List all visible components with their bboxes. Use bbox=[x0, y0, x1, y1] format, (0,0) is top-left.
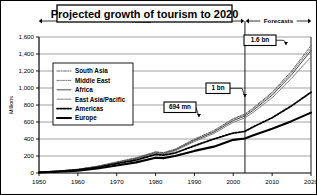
tourism-growth-line-chart: 02004006008001,0001,2001,4001,600Million… bbox=[1, 1, 316, 194]
forecasts-band-arrow-right-icon bbox=[308, 18, 311, 23]
y-axis-tick-label: 800 bbox=[24, 101, 35, 108]
legend-label-americas[interactable]: Americas bbox=[75, 105, 104, 112]
y-axis-tick-label: 400 bbox=[24, 135, 35, 142]
legend-label-europe[interactable]: Europe bbox=[75, 114, 97, 122]
x-axis-tick-label: 2000 bbox=[226, 178, 240, 185]
y-axis-title: Millions bbox=[8, 96, 14, 114]
page-title: Projected growth of tourism to 2020 bbox=[51, 8, 239, 20]
x-axis-tick-label: 1970 bbox=[110, 178, 124, 185]
y-axis-tick-label: 600 bbox=[24, 118, 35, 125]
x-axis-tick-label: 1960 bbox=[71, 178, 85, 185]
y-axis-tick-label: 0 bbox=[31, 169, 35, 176]
legend-label-south-asia[interactable]: South Asia bbox=[75, 67, 108, 74]
annotation-1bn-label: 1 bn bbox=[211, 84, 224, 91]
chart-figure: 02004006008001,0001,2001,4001,600Million… bbox=[0, 0, 317, 195]
legend-label-east-asia-pacific[interactable]: East Asia/Pacific bbox=[75, 96, 126, 103]
x-axis-tick-label: 1980 bbox=[149, 178, 163, 185]
y-axis-tick-label: 200 bbox=[24, 152, 35, 159]
actual-band-arrow-left-icon bbox=[39, 18, 42, 23]
y-axis-tick-label: 1,000 bbox=[19, 84, 35, 91]
x-axis-tick-label: 2010 bbox=[265, 178, 279, 185]
x-axis-tick-label: 1950 bbox=[32, 178, 46, 185]
x-axis-tick-label: 1990 bbox=[188, 178, 202, 185]
legend-label-middle-east[interactable]: Middle East bbox=[75, 77, 111, 84]
annotation-694mn-label: 694 mn bbox=[169, 103, 191, 110]
forecasts-band-label: Forecasts bbox=[264, 17, 294, 24]
actual-band-arrow-right-icon bbox=[241, 18, 244, 23]
annotation-16bn-label: 1.6 bn bbox=[251, 36, 270, 43]
x-axis-tick-label: 2020 bbox=[304, 178, 316, 185]
y-axis-tick-label: 1,400 bbox=[19, 50, 35, 57]
y-axis-tick-label: 1,200 bbox=[19, 67, 35, 74]
y-axis-tick-label: 1,600 bbox=[19, 33, 35, 40]
legend-label-africa[interactable]: Africa bbox=[75, 86, 93, 93]
forecasts-band-arrow-left-icon bbox=[246, 18, 249, 23]
